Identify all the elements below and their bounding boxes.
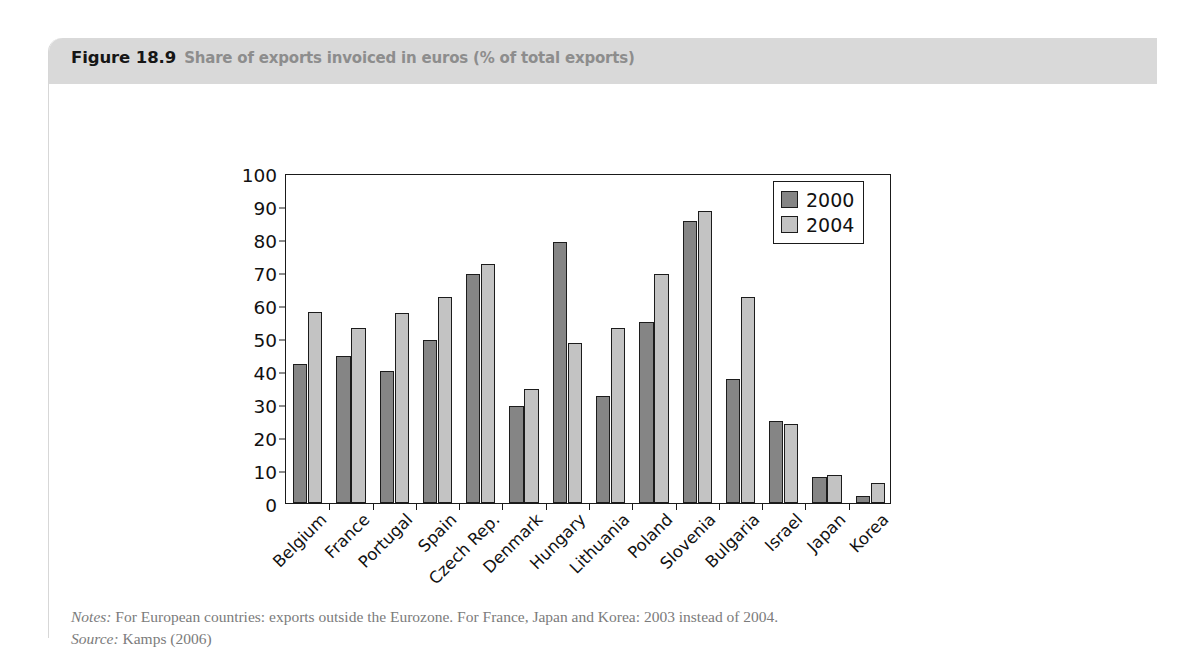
bar-group [329,175,372,503]
bar-group [719,175,762,503]
bar-2004-portugal [395,313,409,503]
bar-group [589,175,632,503]
y-tick-label: 30 [253,396,277,417]
bar-2004-hungary [568,343,582,503]
bar-2004-denmark [524,389,538,503]
chart-legend: 2000 2004 [773,181,864,244]
bar-2004-spain [438,297,452,503]
x-axis-label: Israel [761,510,806,555]
y-tick-mark [279,439,286,440]
figure-header-text: Figure 18.9Share of exports invoiced in … [71,48,635,67]
bar-2004-israel [784,424,798,503]
y-tick-label: 80 [253,231,277,252]
bar-group [416,175,459,503]
bar-2000-denmark [509,406,523,503]
y-tick-mark [279,307,286,308]
page-root: Figure 18.9Share of exports invoiced in … [0,0,1197,651]
legend-swatch-2000 [781,191,798,208]
x-axis-label: Belgium [269,510,330,571]
bar-2000-hungary [553,242,567,503]
bar-group [286,175,329,503]
figure-title: Share of exports invoiced in euros (% of… [184,49,634,67]
chart-area: 0102030405060708090100 2000 2004 Belgium… [49,84,1157,592]
bar-2000-belgium [293,364,307,503]
bar-2004-korea [871,483,885,503]
notes-label: Notes: [71,608,111,625]
bar-2004-lithuania [611,328,625,503]
legend-label-2004: 2004 [806,214,854,236]
y-tick-label: 60 [253,297,277,318]
legend-item-2004: 2004 [781,212,854,237]
y-tick-label: 40 [253,363,277,384]
bar-2000-israel [769,421,783,504]
bar-2000-slovenia [683,221,697,503]
figure-number: Figure 18.9 [71,48,176,67]
y-tick-label: 0 [265,495,277,516]
figure-footer: Notes: For European countries: exports o… [71,606,1141,650]
bar-2004-poland [654,274,668,503]
bar-2000-spain [423,340,437,503]
bar-2000-lithuania [596,396,610,503]
bar-2004-belgium [308,312,322,503]
legend-swatch-2004 [781,216,798,233]
figure-panel: Figure 18.9Share of exports invoiced in … [48,38,1156,638]
plot-frame: 0102030405060708090100 2000 2004 [285,174,891,504]
y-tick-mark [279,406,286,407]
bar-2000-france [336,356,350,503]
legend-item-2000: 2000 [781,187,854,212]
y-tick-mark [279,472,286,473]
x-axis-labels: BelgiumFrancePortugalSpainCzech Rep.Denm… [285,504,891,594]
y-tick-label: 50 [253,330,277,351]
bar-group [546,175,589,503]
y-tick-label: 10 [253,462,277,483]
bar-2000-korea [856,496,870,503]
y-tick-mark [279,274,286,275]
figure-notes: Notes: For European countries: exports o… [71,606,1141,628]
y-tick-mark [279,241,286,242]
x-axis-label: Korea [846,510,893,557]
figure-source: Source: Kamps (2006) [71,628,1141,650]
y-tick-mark [279,208,286,209]
figure-header: Figure 18.9Share of exports invoiced in … [49,38,1157,84]
y-tick-mark [279,340,286,341]
legend-label-2000: 2000 [806,189,854,211]
y-tick-mark [279,373,286,374]
bar-2000-portugal [380,371,394,503]
bar-2004-france [351,328,365,503]
bar-2004-slovenia [698,211,712,503]
y-tick-label: 70 [253,264,277,285]
bar-group [373,175,416,503]
source-label: Source: [71,630,119,647]
bar-2000-bulgaria [726,379,740,503]
bar-group [502,175,545,503]
bar-2000-poland [639,322,653,504]
x-axis-label: Japan [804,510,850,556]
bar-group [676,175,719,503]
bar-2000-japan [812,477,826,503]
y-tick-label: 100 [242,165,277,186]
bar-group [459,175,502,503]
bar-2004-czech-rep [481,264,495,503]
bar-2000-czech-rep [466,274,480,503]
bar-2004-bulgaria [741,297,755,503]
source-text: Kamps (2006) [123,630,212,647]
bar-group [632,175,675,503]
notes-text: For European countries: exports outside … [115,608,778,625]
bar-2004-japan [827,475,841,503]
y-tick-label: 90 [253,198,277,219]
y-tick-label: 20 [253,429,277,450]
